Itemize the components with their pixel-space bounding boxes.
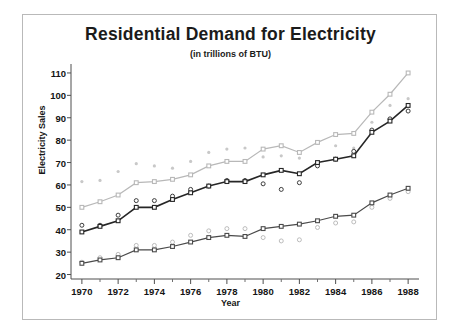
x-tick-label: 1988 xyxy=(398,286,419,297)
y-tick-label: 70 xyxy=(55,157,66,168)
y-tick-label: 80 xyxy=(55,135,66,146)
x-tick-label: 1980 xyxy=(253,286,274,297)
x-tick-label: 1984 xyxy=(325,286,346,297)
y-tick-label: 90 xyxy=(55,112,66,123)
y-tick-label: 110 xyxy=(51,67,66,78)
series-upper xyxy=(80,71,410,209)
y-tick-label: 60 xyxy=(55,179,66,190)
data-svg xyxy=(71,64,421,281)
series-middle xyxy=(80,104,410,234)
x-tick-label: 1976 xyxy=(180,286,201,297)
y-tick-label: 50 xyxy=(55,202,66,213)
middle-scatter xyxy=(80,109,410,227)
chart-title: Residential Demand for Electricity xyxy=(23,24,438,45)
plot-area: 2030405060708090100110 19701972197419761… xyxy=(71,64,419,279)
y-tick-label: 100 xyxy=(50,90,66,101)
chart-subtitle: (in trillions of BTU) xyxy=(23,49,438,59)
chart-figure: Residential Demand for Electricity (in t… xyxy=(22,14,437,320)
y-axis-label: Electricity Sales xyxy=(37,85,47,195)
x-tick-label: 1974 xyxy=(144,286,165,297)
x-tick-label: 1986 xyxy=(361,286,382,297)
x-tick-label: 1970 xyxy=(71,286,92,297)
upper-scatter xyxy=(80,97,409,183)
x-tick-label: 1972 xyxy=(108,286,129,297)
y-tick-label: 30 xyxy=(55,247,66,258)
x-tick-label: 1982 xyxy=(289,286,310,297)
y-tick-label: 40 xyxy=(55,224,66,235)
y-tick-label: 20 xyxy=(55,269,66,280)
series-lower xyxy=(80,186,410,265)
x-axis-label: Year xyxy=(23,298,438,308)
x-tick-label: 1978 xyxy=(216,286,237,297)
